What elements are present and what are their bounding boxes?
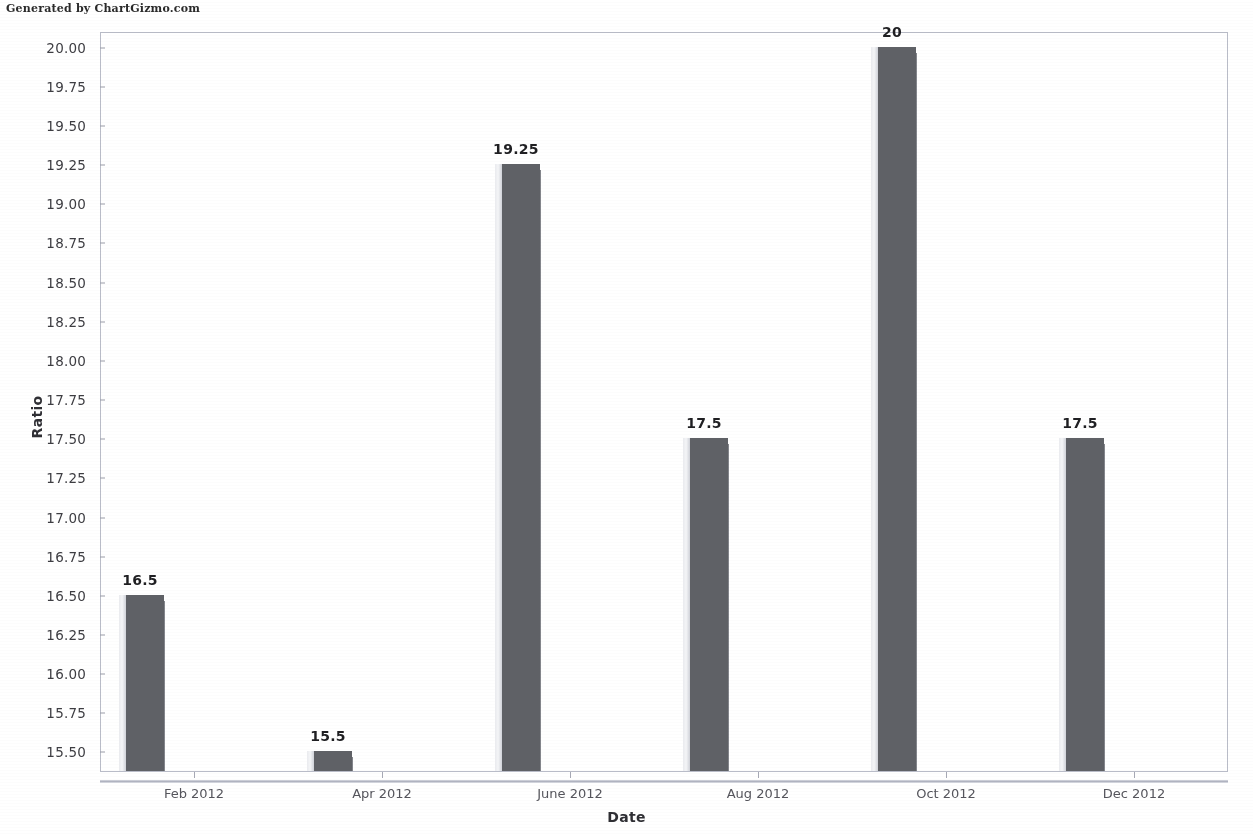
y-axis-tick-mark	[100, 556, 105, 557]
bar[interactable]	[871, 47, 917, 771]
y-axis-tick-mark	[100, 517, 105, 518]
bar-body	[1066, 438, 1104, 771]
y-axis-tick-label: 19.00	[46, 196, 86, 212]
y-axis-tick-label: 18.50	[46, 275, 86, 291]
bar[interactable]	[119, 595, 165, 771]
bar[interactable]	[683, 438, 729, 771]
y-axis-tick-mark	[100, 713, 105, 714]
x-axis-tick-mark	[382, 772, 383, 778]
plot-area-frame	[100, 32, 1228, 772]
y-axis-tick-label: 16.50	[46, 588, 86, 604]
y-axis-tick-mark	[100, 360, 105, 361]
y-axis-tick-label: 15.50	[46, 744, 86, 760]
bar-highlight-edge	[307, 751, 314, 771]
y-axis-tick-mark	[100, 86, 105, 87]
y-axis-tick-mark	[100, 165, 105, 166]
bar-body	[314, 751, 352, 771]
x-axis-tick-mark	[946, 772, 947, 778]
y-axis-tick-mark	[100, 282, 105, 283]
y-axis-tick-label: 16.25	[46, 627, 86, 643]
x-axis-tick-mark	[758, 772, 759, 778]
y-axis-tick-label: 17.75	[46, 392, 86, 408]
y-axis-tick-mark	[100, 674, 105, 675]
bar-highlight-edge	[119, 595, 126, 771]
x-axis-line	[100, 780, 1228, 783]
bar-body	[878, 47, 916, 771]
y-axis-tick-mark	[100, 243, 105, 244]
bar-highlight-edge	[683, 438, 690, 771]
y-axis-tick-label: 16.00	[46, 666, 86, 682]
x-axis-tick-label: Oct 2012	[916, 786, 976, 801]
x-axis-tick-mark	[194, 772, 195, 778]
bar-value-label: 20	[882, 24, 902, 40]
bar-value-label: 16.5	[122, 572, 158, 588]
x-axis-tick-label: Apr 2012	[352, 786, 412, 801]
y-axis-tick-mark	[100, 752, 105, 753]
y-axis-tick-label: 20.00	[46, 40, 86, 56]
y-axis-tick-label: 18.25	[46, 314, 86, 330]
bar-body	[126, 595, 164, 771]
plot-area-inner	[101, 33, 1227, 771]
bar-highlight-edge	[1059, 438, 1066, 771]
bar-value-label: 19.25	[493, 141, 539, 157]
x-axis-tick-label: Feb 2012	[164, 786, 224, 801]
y-axis-tick-label: 18.00	[46, 353, 86, 369]
bar-value-label: 15.5	[310, 728, 346, 744]
y-axis-tick-label: 17.50	[46, 431, 86, 447]
bar-body	[502, 164, 540, 771]
bar[interactable]	[495, 164, 541, 771]
y-axis-tick-label: 19.25	[46, 157, 86, 173]
y-axis-tick-label: 17.00	[46, 510, 86, 526]
bar-value-label: 17.5	[686, 415, 722, 431]
y-axis-tick-mark	[100, 47, 105, 48]
x-axis-tick-label: June 2012	[537, 786, 603, 801]
y-axis-tick-mark	[100, 321, 105, 322]
y-axis-tick-mark	[100, 478, 105, 479]
y-axis-tick-labels: 20.0019.7519.5019.2519.0018.7518.5018.25…	[0, 32, 94, 772]
y-axis-tick-label: 15.75	[46, 705, 86, 721]
y-axis-tick-mark	[100, 634, 105, 635]
y-axis-tick-label: 19.50	[46, 118, 86, 134]
bar[interactable]	[307, 751, 353, 771]
y-axis-tick-label: 18.75	[46, 235, 86, 251]
y-axis-tick-label: 19.75	[46, 79, 86, 95]
y-axis-tick-mark	[100, 595, 105, 596]
x-axis-title: Date	[0, 809, 1253, 825]
x-axis-tick-label: Aug 2012	[727, 786, 790, 801]
x-axis-tick-mark	[1134, 772, 1135, 778]
bar-highlight-edge	[871, 47, 878, 771]
y-axis-tick-label: 16.75	[46, 549, 86, 565]
y-axis-tick-mark	[100, 204, 105, 205]
y-axis-tick-mark	[100, 125, 105, 126]
y-axis-tick-label: 17.25	[46, 470, 86, 486]
bar[interactable]	[1059, 438, 1105, 771]
x-axis-tick-mark	[570, 772, 571, 778]
bar-value-label: 17.5	[1062, 415, 1098, 431]
bar-highlight-edge	[495, 164, 502, 771]
x-axis-tick-label: Dec 2012	[1103, 786, 1165, 801]
y-axis-title: Ratio	[29, 396, 45, 439]
y-axis-tick-mark	[100, 439, 105, 440]
bar-body	[690, 438, 728, 771]
chartgizmo-watermark: Generated by ChartGizmo.com	[6, 2, 200, 15]
y-axis-tick-mark	[100, 400, 105, 401]
